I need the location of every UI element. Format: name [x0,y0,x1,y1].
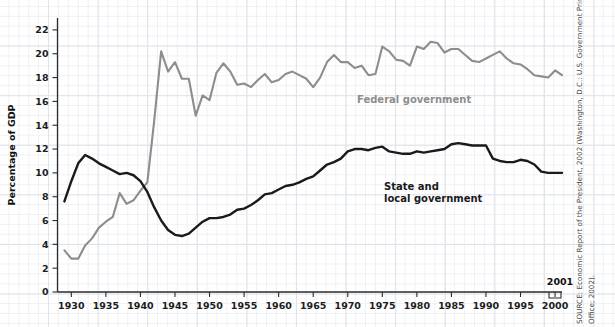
x-axis-tick-label: 1970 [335,300,362,311]
y-axis-group: 0246810121416182022 [35,18,57,297]
state-local-government-label-line2: local government [384,193,483,204]
x-axis-group: 1930193519401945195019551960196519701975… [58,292,569,311]
x-axis-tick-label: 1965 [300,300,326,311]
y-axis-ticks [53,30,58,292]
x-axis-tick-label: 1985 [438,300,464,311]
y-axis-tick-label: 8 [42,191,49,202]
y-axis-tick-label: 18 [35,72,49,83]
series-line-state-local-government [64,143,562,236]
x-axis-tick-label: 2000 [542,300,569,311]
x-axis-tick-label: 1945 [162,300,188,311]
x-axis-tick-label: 1960 [265,300,292,311]
y-axis-tick-label: 12 [35,143,48,154]
x-axis-tick-label: 1995 [507,300,533,311]
source-note-line2: Office; 2002). [587,275,597,324]
x-axis-tick-label: 1930 [58,300,85,311]
y-axis-tick-label: 14 [35,120,49,131]
state-local-government-label-line1: State and [384,181,439,192]
x-axis-tick-label: 1940 [127,300,154,311]
source-note-line1: SOURCE: Economic Report of the President… [575,0,585,324]
x-axis-ticks [71,292,555,297]
x-axis-tick-label: 1935 [93,300,119,311]
y-axis-tick-label: 20 [35,48,49,59]
x-axis-tick-label: 1950 [196,300,223,311]
source-note: SOURCE: Economic Report of the President… [575,4,615,324]
y-axis-tick-label: 10 [35,167,49,178]
y-axis-tick-label: 2 [42,263,49,274]
endpoint-year-marker: 2001 [547,276,573,298]
y-axis-tick-labels: 0246810121416182022 [35,24,49,297]
y-axis-tick-label: 4 [42,239,49,250]
y-axis-tick-label: 22 [35,24,48,35]
y-axis-tick-label: 6 [42,215,49,226]
endpoint-year-label: 2001 [547,276,573,287]
x-axis-tick-label: 1975 [369,300,395,311]
x-axis-tick-label: 1990 [473,300,500,311]
y-axis-tick-label: 16 [35,96,49,107]
x-axis-tick-labels: 1930193519401945195019551960196519701975… [58,300,569,311]
line-chart-plot: 0246810121416182022 19301935194019451950… [0,0,615,327]
x-axis-tick-label: 1980 [404,300,431,311]
y-axis-tick-label: 0 [42,286,49,297]
y-axis-title: Percentage of GDP [6,104,17,205]
federal-government-label: Federal government [357,94,471,105]
chart-screenshot: 0246810121416182022 19301935194019451950… [0,0,615,327]
x-axis-tick-label: 1955 [231,300,257,311]
